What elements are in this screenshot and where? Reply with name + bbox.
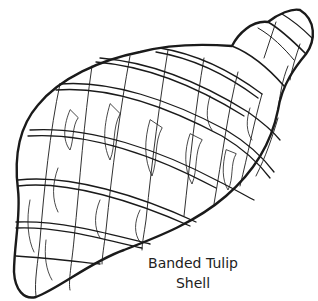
caption-line-2: Shell bbox=[138, 273, 248, 293]
caption-line-1: Banded Tulip bbox=[138, 253, 248, 273]
shell-caption: Banded Tulip Shell bbox=[138, 253, 248, 293]
coloring-page: Banded Tulip Shell bbox=[0, 0, 318, 301]
